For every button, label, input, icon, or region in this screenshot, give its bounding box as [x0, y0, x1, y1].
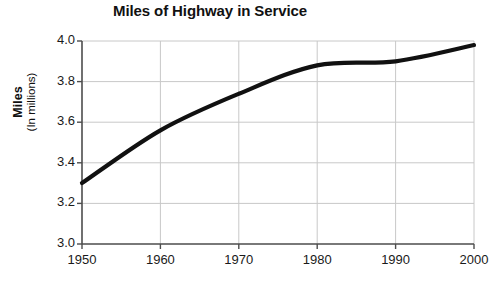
horizontal-gridlines — [82, 41, 474, 203]
vertical-gridlines — [160, 41, 474, 244]
